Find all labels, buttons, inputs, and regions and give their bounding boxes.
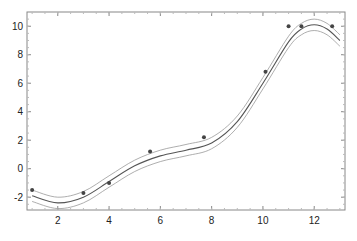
- data-point: [299, 24, 303, 28]
- x-tick-label: 4: [106, 215, 112, 226]
- confidence-band-curve: [32, 19, 340, 197]
- y-tick-label: 0: [17, 163, 23, 174]
- x-tick-label: 2: [55, 215, 61, 226]
- data-point: [148, 150, 152, 154]
- y-tick-label: 4: [17, 106, 23, 117]
- y-tick-label: 10: [12, 21, 24, 32]
- data-point: [81, 191, 85, 195]
- fit-curve: [32, 25, 340, 203]
- data-point: [330, 24, 334, 28]
- data-point: [264, 70, 268, 74]
- confidence-band-curve: [32, 31, 340, 209]
- plot-frame: [27, 12, 345, 210]
- data-point: [107, 181, 111, 185]
- y-tick-label: 8: [17, 49, 23, 60]
- x-tick-label: 6: [158, 215, 164, 226]
- y-tick-label: -2: [14, 192, 23, 203]
- chart: 24681012-20246810: [0, 0, 357, 241]
- x-tick-label: 12: [309, 215, 321, 226]
- data-point: [202, 135, 206, 139]
- x-tick-label: 10: [257, 215, 269, 226]
- x-tick-label: 8: [209, 215, 215, 226]
- y-tick-label: 2: [17, 135, 23, 146]
- data-point: [30, 188, 34, 192]
- y-tick-label: 6: [17, 78, 23, 89]
- data-point: [287, 24, 291, 28]
